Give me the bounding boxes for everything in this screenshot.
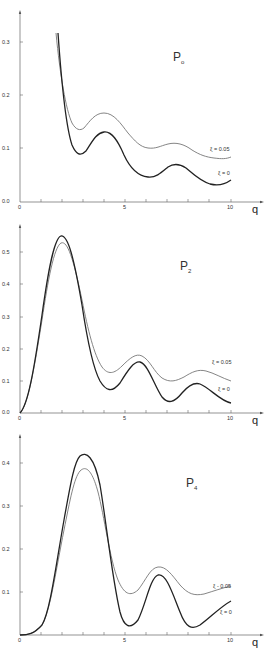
x-tick-label: 0 <box>18 204 21 210</box>
y-tick-label: 0.0 <box>2 409 10 415</box>
y-tick-label: 0.1 <box>2 145 10 151</box>
curve-label-xi-0.05: ξ - 0.05 <box>213 583 231 590</box>
x-tick-label: 0 <box>18 415 21 421</box>
x-axis-arrow-icon <box>260 634 264 636</box>
x-tick-label: 10 <box>227 204 233 210</box>
y-tick-label: 0.2 <box>2 546 10 552</box>
curve-label-xi-0: ξ = 0 <box>218 170 230 177</box>
curve-label-xi-0: ξ = 0 <box>220 609 232 616</box>
y-tick-label: 0.3 <box>2 39 10 45</box>
curve-xi-0 <box>58 33 231 185</box>
x-tick-label: 10 <box>227 415 233 421</box>
y-tick-label: 0.5 <box>2 249 10 255</box>
chart-title: Po <box>173 50 185 65</box>
y-tick-label: 0.2 <box>2 92 10 98</box>
chart-title: P2 <box>180 259 192 274</box>
figure: 0.3 0.2 0.1 0.0 0 5 10 q Po ξ = 0.05 ξ =… <box>0 0 268 648</box>
curve-xi-0.05 <box>20 243 231 413</box>
x-tick-label: 5 <box>123 415 126 421</box>
chart-title: P4 <box>186 476 198 491</box>
y-axis-arrow-icon <box>19 10 21 14</box>
panel-p0: 0.3 0.2 0.1 0.0 0 5 10 q Po ξ = 0.05 ξ =… <box>2 10 264 215</box>
curve-label-xi-0: ξ = 0 <box>218 386 230 393</box>
y-tick-label: 0.1 <box>2 589 10 595</box>
x-tick-label: 0 <box>18 637 21 643</box>
x-axis-arrow-icon <box>260 201 264 203</box>
x-axis-label: q <box>252 203 258 215</box>
y-tick-label: 0.4 <box>2 281 10 287</box>
curve-xi-0.05 <box>20 469 231 635</box>
x-axis-label: q <box>252 414 258 426</box>
x-tick-label: 5 <box>123 204 126 210</box>
x-tick-label: 5 <box>123 637 126 643</box>
panel-p4: 0.4 0.3 0.2 0.1 0 5 10 q P4 ξ - 0.05 ξ =… <box>2 434 264 648</box>
curve-xi-0.05 <box>56 33 231 159</box>
y-tick-label: 0.0 <box>2 198 10 204</box>
panel-p2: 0.5 0.4 0.3 0.2 0.1 0.0 0 5 10 q P2 ξ = … <box>2 224 264 426</box>
y-axis-arrow-icon <box>19 434 21 438</box>
curve-label-xi-0.05: ξ = 0.05 <box>210 146 229 153</box>
y-tick-label: 0.1 <box>2 378 10 384</box>
curve-label-xi-0.05: ξ = 0.05 <box>212 359 231 366</box>
x-axis-label: q <box>252 636 258 648</box>
curve-xi-0 <box>20 236 231 413</box>
y-tick-label: 0.3 <box>2 503 10 509</box>
x-axis-arrow-icon <box>260 412 264 414</box>
y-axis-arrow-icon <box>19 224 21 228</box>
y-tick-label: 0.3 <box>2 314 10 320</box>
y-tick-label: 0.2 <box>2 346 10 352</box>
x-tick-label: 10 <box>227 637 233 643</box>
y-tick-label: 0.4 <box>2 460 10 466</box>
curve-xi-0 <box>20 454 231 635</box>
